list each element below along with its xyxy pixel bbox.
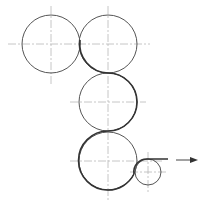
web-path bbox=[79, 40, 169, 190]
roller-diagram bbox=[0, 0, 208, 207]
centerlines bbox=[8, 6, 166, 200]
direction-arrow-icon bbox=[176, 157, 198, 163]
